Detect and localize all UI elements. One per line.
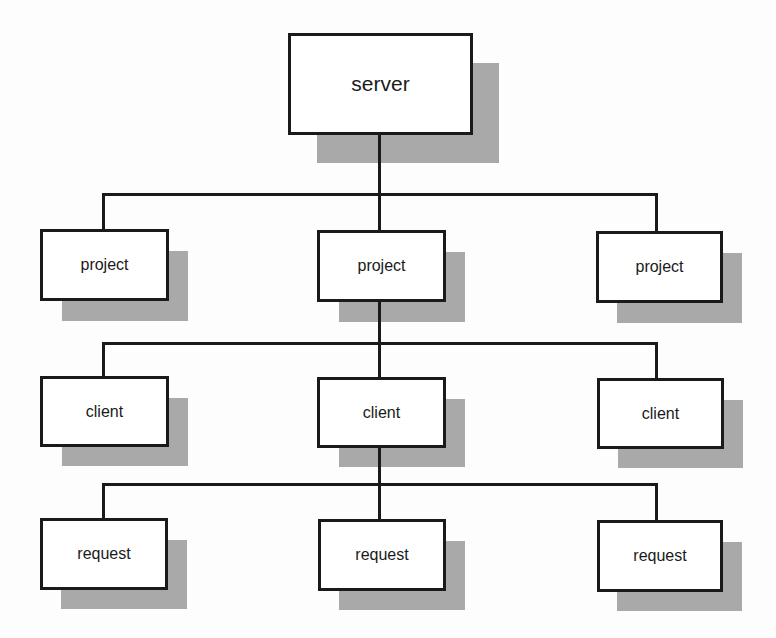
node-project-left[interactable]: project — [40, 229, 169, 301]
node-request-right[interactable]: request — [597, 520, 723, 592]
node-label: request — [77, 545, 130, 563]
node-request-middle[interactable]: request — [318, 519, 446, 591]
node-server[interactable]: server — [288, 33, 473, 135]
node-client-left[interactable]: client — [40, 376, 169, 447]
connector-project-left — [102, 193, 105, 231]
node-label: server — [351, 72, 409, 96]
node-label: client — [642, 405, 679, 423]
connector-client-right — [655, 342, 658, 379]
node-client-right[interactable]: client — [597, 378, 724, 449]
node-client-middle[interactable]: client — [317, 377, 446, 448]
connector-request-bus — [102, 483, 658, 486]
connector-client-left — [102, 342, 105, 378]
connector-project-right — [655, 193, 658, 233]
connector-client-trunk-overlay — [378, 446, 381, 468]
node-project-middle[interactable]: project — [317, 230, 446, 302]
node-label: client — [363, 404, 400, 422]
connector-project-trunk-overlay — [378, 300, 381, 323]
node-project-right[interactable]: project — [596, 231, 723, 303]
node-label: project — [80, 256, 128, 274]
tree-diagram: server project project project client cl… — [0, 0, 776, 638]
node-label: request — [355, 546, 408, 564]
node-request-left[interactable]: request — [40, 518, 168, 590]
connector-client-bus — [102, 342, 658, 345]
node-label: project — [357, 257, 405, 275]
connector-server-trunk-overlay — [378, 134, 381, 164]
connector-request-left — [102, 483, 105, 520]
node-label: request — [633, 547, 686, 565]
connector-project-bus — [102, 193, 658, 196]
connector-request-right — [655, 483, 658, 521]
node-label: project — [635, 258, 683, 276]
node-label: client — [86, 403, 123, 421]
